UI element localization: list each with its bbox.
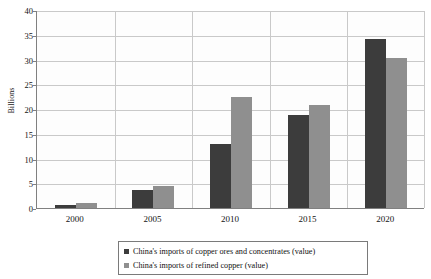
y-axis-tick-label: 25 — [3, 81, 33, 90]
plot-right-border — [424, 11, 425, 208]
legend-label-series-0: China's imports of copper ores and conce… — [133, 247, 315, 256]
y-axis-tick-labels: 0510152025303540 — [0, 11, 33, 209]
legend-swatch-icon-series-0 — [124, 249, 129, 254]
x-axis-tick-label-2010: 2010 — [200, 214, 260, 224]
bar-2010-series-0[interactable] — [210, 144, 231, 208]
plot-top-border — [37, 11, 424, 12]
plot-area — [36, 11, 424, 209]
x-axis-tick-label-2005: 2005 — [122, 214, 182, 224]
bar-2000-series-0[interactable] — [55, 205, 76, 208]
gridline-vertical — [115, 11, 116, 208]
bar-2015-series-1[interactable] — [309, 105, 330, 208]
legend-swatch-icon-series-1 — [124, 263, 129, 268]
bar-chart: Billions 0510152025303540 20002005201020… — [0, 0, 431, 279]
bar-2005-series-0[interactable] — [132, 190, 153, 208]
bar-2005-series-1[interactable] — [153, 186, 174, 208]
y-axis-tick-label: 35 — [3, 32, 33, 41]
gridline-vertical — [192, 11, 193, 208]
legend-item-series-1[interactable]: China's imports of refined copper (value… — [124, 259, 362, 272]
y-axis-tick-label: 15 — [3, 131, 33, 140]
y-axis-tick-label: 5 — [3, 180, 33, 189]
x-axis-tick-label-2020: 2020 — [355, 214, 415, 224]
y-axis-tick-mark — [33, 209, 36, 210]
legend-item-series-0[interactable]: China's imports of copper ores and conce… — [124, 245, 362, 258]
chart-legend: China's imports of copper ores and conce… — [118, 241, 368, 275]
y-axis-tick-label: 20 — [3, 106, 33, 115]
legend-label-series-1: China's imports of refined copper (value… — [133, 261, 268, 270]
gridline-vertical — [347, 11, 348, 208]
gridline-vertical — [270, 11, 271, 208]
y-axis-tick-label: 10 — [3, 156, 33, 165]
bar-2015-series-0[interactable] — [288, 115, 309, 208]
y-axis-tick-label: 40 — [3, 7, 33, 16]
x-axis-tick-label-2000: 2000 — [45, 214, 105, 224]
gridline-horizontal — [37, 36, 424, 37]
y-axis-tick-label: 0 — [3, 205, 33, 214]
y-axis-tick-label: 30 — [3, 57, 33, 66]
bar-2020-series-0[interactable] — [365, 39, 386, 208]
bar-2020-series-1[interactable] — [386, 58, 407, 208]
bar-2000-series-1[interactable] — [76, 203, 97, 208]
x-axis-tick-label-2015: 2015 — [278, 214, 338, 224]
bar-2010-series-1[interactable] — [231, 97, 252, 208]
